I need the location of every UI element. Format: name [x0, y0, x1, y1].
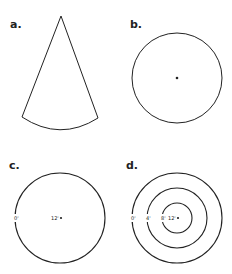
tick-label-12: 12' [168, 215, 176, 221]
figure: a. b. c. 0' 12' d. 0' 4' 8' 12' [0, 0, 232, 274]
panel-b-label: b. [130, 18, 142, 31]
panel-c: c. 0' 12' [9, 159, 105, 263]
tick-label-8: 8' [161, 215, 166, 221]
panel-c-label: c. [9, 159, 20, 172]
panel-d-label: d. [126, 159, 138, 172]
center-dot [176, 77, 179, 80]
tick-label-0: 0' [131, 215, 136, 221]
panel-b: b. [130, 18, 222, 123]
tick-label-4: 4' [146, 215, 151, 221]
cone-sector-shape [22, 16, 98, 130]
tick-label-0: 0' [14, 215, 19, 221]
panel-a-label: a. [10, 18, 22, 31]
center-dot [177, 217, 179, 219]
panel-a: a. [10, 16, 98, 130]
panel-d: d. 0' 4' 8' 12' [126, 159, 222, 263]
center-dot [60, 217, 62, 219]
tick-label-12: 12' [51, 215, 59, 221]
